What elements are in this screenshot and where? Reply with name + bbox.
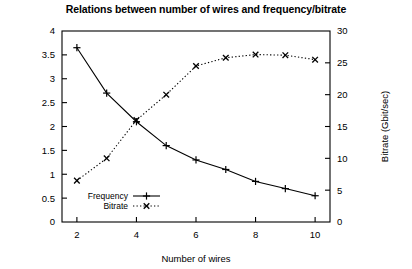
- x-axis-ticks: 246810: [74, 217, 320, 240]
- y-axis-right-label: Bitrate (Gbit/sec): [379, 91, 390, 162]
- y-ticklabel-left: 2: [50, 121, 55, 132]
- x-axis-label: Number of wires: [161, 253, 230, 264]
- y-ticklabel-left: 2.5: [42, 97, 55, 108]
- x-ticklabel: 6: [193, 229, 198, 240]
- y-ticklabel-right: 20: [337, 89, 348, 100]
- series-markers-frequency: [73, 44, 318, 199]
- x-ticklabel: 10: [310, 229, 321, 240]
- y-ticklabel-left: 0: [50, 216, 55, 227]
- y-ticklabel-left: 4: [50, 25, 55, 36]
- x-ticklabel: 4: [134, 229, 139, 240]
- chart-canvas: 00.511.522.533.54 051015202530 246810 Fr…: [0, 0, 412, 269]
- chart-figure: Relations between number of wires and fr…: [0, 0, 412, 269]
- y-ticklabel-right: 25: [337, 57, 348, 68]
- y-ticklabel-right: 5: [337, 185, 342, 196]
- legend-label-bitrate: Bitrate: [103, 201, 128, 211]
- x-ticklabel: 2: [74, 229, 79, 240]
- y-ticklabel-right: 0: [337, 216, 342, 227]
- y-axis-right-ticks: 051015202530: [325, 25, 348, 227]
- y-ticklabel-right: 30: [337, 25, 348, 36]
- y-ticklabel-right: 10: [337, 153, 348, 164]
- y-ticklabel-left: 0.5: [42, 193, 55, 204]
- y-ticklabel-left: 1: [50, 169, 55, 180]
- legend-label-frequency: Frequency: [88, 191, 129, 201]
- x-ticklabel: 8: [253, 229, 258, 240]
- y-ticklabel-left: 3: [50, 73, 55, 84]
- chart-legend: FrequencyBitrate: [88, 191, 160, 211]
- y-ticklabel-right: 15: [337, 121, 348, 132]
- data-series-layer: [73, 44, 318, 199]
- series-markers-bitrate: [74, 52, 318, 184]
- series-line-frequency: [77, 48, 315, 196]
- y-axis-left-ticks: 00.511.522.533.54: [42, 25, 67, 227]
- y-ticklabel-left: 3.5: [42, 49, 55, 60]
- y-ticklabel-left: 1.5: [42, 145, 55, 156]
